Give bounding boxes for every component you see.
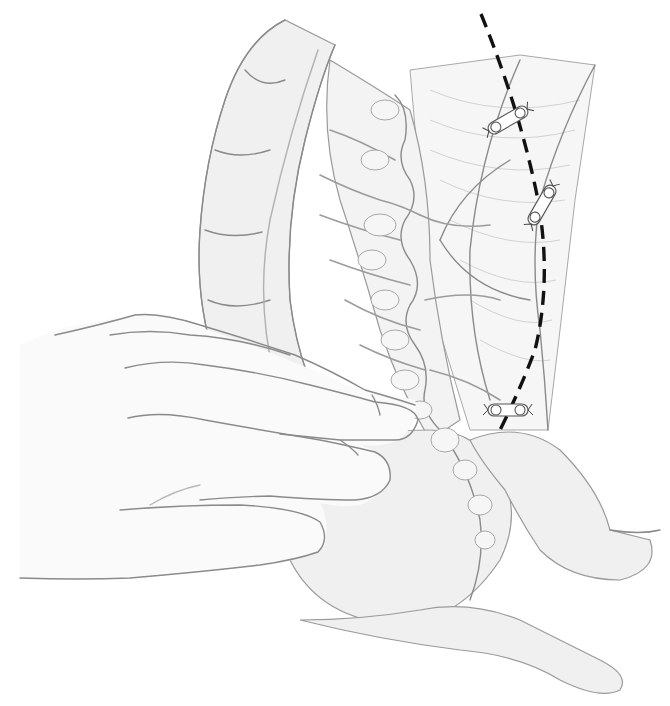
ligature-clip: [483, 404, 533, 416]
anatomy-illustration: [0, 0, 670, 706]
illustration-canvas: [0, 0, 670, 706]
